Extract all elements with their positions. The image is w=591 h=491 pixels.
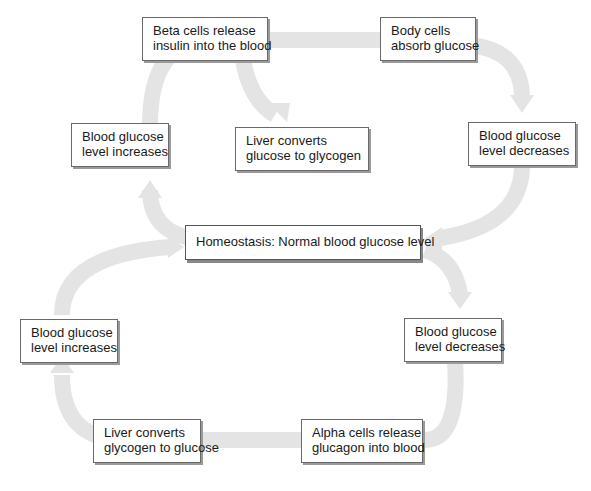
liver-glycogen-box: Liver converts glucose to glycogen	[235, 127, 369, 171]
body-line2: absorb glucose	[391, 38, 467, 53]
blood-glucose-increase-bottom-box: Blood glucose level increases	[20, 319, 118, 363]
arrowhead-decrease-bottom	[448, 292, 472, 309]
arrowhead-decrease-top	[510, 95, 534, 113]
blood-glucose-decrease-bottom-box: Blood glucose level decreases	[404, 318, 502, 362]
arrow-decrease-to-alpha	[425, 360, 456, 440]
liver-glucose-line2: glycogen to glucose	[104, 440, 192, 455]
beta-line1: Beta cells release	[153, 23, 259, 38]
beta-cells-box: Beta cells release insulin into the bloo…	[142, 17, 268, 61]
blood-glucose-decrease-top-box: Blood glucose level decreases	[468, 122, 576, 166]
arrow-increase-to-homeostasis	[62, 247, 170, 315]
body-cells-box: Body cells absorb glucose	[380, 17, 476, 61]
alpha-cells-box: Alpha cells release glucagon into blood	[301, 419, 423, 463]
bg-increase-bottom-line2: level increases	[31, 340, 109, 355]
bg-increase-top-line2: level increases	[82, 144, 160, 159]
blood-glucose-increase-top-box: Blood glucose level increases	[71, 123, 169, 167]
bg-decrease-top-line1: Blood glucose	[479, 128, 567, 143]
homeostasis-box: Homeostasis: Normal blood glucose level	[185, 225, 421, 260]
arrow-beta-to-liver	[243, 60, 275, 115]
arrow-homeostasis-to-decrease	[425, 250, 460, 295]
liver-glucose-box: Liver converts glycogen to glucose	[93, 419, 201, 463]
bg-increase-bottom-line1: Blood glucose	[31, 325, 109, 340]
alpha-line1: Alpha cells release	[312, 425, 414, 440]
arrowhead-increase-top	[138, 180, 162, 198]
liver-glycogen-line1: Liver converts	[246, 133, 360, 148]
bg-decrease-top-line2: level decreases	[479, 143, 567, 158]
arrow-decrease-to-homeostasis	[440, 160, 522, 238]
liver-glucose-line1: Liver converts	[104, 425, 192, 440]
bg-increase-top-line1: Blood glucose	[82, 129, 160, 144]
liver-glycogen-line2: glucose to glycogen	[246, 148, 360, 163]
bg-decrease-bottom-line2: level decreases	[415, 339, 493, 354]
bg-decrease-bottom-line1: Blood glucose	[415, 324, 493, 339]
alpha-line2: glucagon into blood	[312, 440, 414, 455]
body-line1: Body cells	[391, 23, 467, 38]
beta-line2: insulin into the blood	[153, 38, 259, 53]
homeostasis-label: Homeostasis: Normal blood glucose level	[196, 234, 410, 249]
